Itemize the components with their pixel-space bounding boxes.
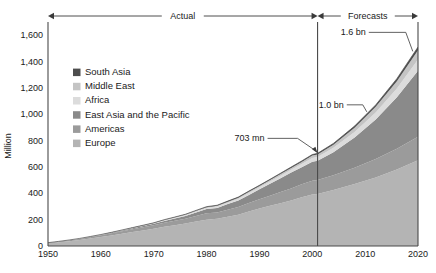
y-tick-label: 1,400 xyxy=(20,57,43,67)
y-tick-label: 800 xyxy=(28,136,43,146)
legend-swatch xyxy=(73,69,81,77)
actual-label: Actual xyxy=(170,11,195,21)
legend-item[interactable]: Africa xyxy=(73,94,110,105)
y-tick-label: 1,600 xyxy=(20,30,43,40)
x-tick-labels: 19501960197019801990200020102020 xyxy=(38,249,428,259)
legend-item[interactable]: East Asia and the Pacific xyxy=(73,109,190,120)
legend-label: East Asia and the Pacific xyxy=(85,109,190,120)
chart-legend: South AsiaMiddle EastAfricaEast Asia and… xyxy=(73,66,190,148)
legend-label: South Asia xyxy=(85,66,131,77)
legend-swatch xyxy=(73,140,81,148)
y-axis-title: Million xyxy=(3,133,13,159)
legend-item[interactable]: Europe xyxy=(73,137,116,148)
legend-swatch xyxy=(73,97,81,105)
legend-swatch xyxy=(73,83,81,91)
legend-label: Americas xyxy=(85,123,125,134)
y-tick-label: 600 xyxy=(28,162,43,172)
x-tick-label: 1970 xyxy=(144,249,164,259)
y-tick-label: 400 xyxy=(28,188,43,198)
leader-703mn-arrowhead xyxy=(312,147,318,154)
legend-item[interactable]: South Asia xyxy=(73,66,131,77)
legend-swatch xyxy=(73,111,81,119)
annotation-1-6bn: 1.6 bn xyxy=(341,27,366,37)
forecasts-label: Forecasts xyxy=(348,11,388,21)
actual-arrowhead-left xyxy=(48,13,54,19)
leader-1-0bn xyxy=(347,105,367,112)
x-tick-label: 1960 xyxy=(91,249,111,259)
forecast-arrowhead-right xyxy=(412,13,418,19)
y-tick-labels: 1,6001,4001,2001,0008006004002000 xyxy=(20,30,43,251)
x-tick-label: 1950 xyxy=(38,249,58,259)
x-tick-label: 2000 xyxy=(302,249,322,259)
y-tick-label: 200 xyxy=(28,215,43,225)
x-tick-label: 2010 xyxy=(355,249,375,259)
legend-swatch xyxy=(73,125,81,132)
y-tick-label: 1,200 xyxy=(20,83,43,93)
chart-canvas: 1,6001,4001,2001,0008006004002000 195019… xyxy=(0,0,436,273)
stacked-area-chart: 1,6001,4001,2001,0008006004002000 195019… xyxy=(0,0,436,273)
actual-arrowhead-right xyxy=(312,13,318,19)
legend-label: Africa xyxy=(85,94,110,105)
x-tick-label: 1990 xyxy=(249,249,269,259)
x-tick-label: 1980 xyxy=(197,249,217,259)
leader-703mn xyxy=(268,138,317,151)
annotation-703mn: 703 mn xyxy=(235,133,265,143)
annotation-1-0bn: 1.0 bn xyxy=(319,100,344,110)
legend-item[interactable]: Americas xyxy=(73,123,125,134)
legend-item[interactable]: Middle East xyxy=(73,80,135,91)
x-tick-label: 2020 xyxy=(408,249,428,259)
legend-label: Europe xyxy=(85,137,116,148)
legend-label: Middle East xyxy=(85,80,135,91)
y-tick-label: 1,000 xyxy=(20,109,43,119)
leader-1-6bn xyxy=(369,32,413,51)
forecast-arrowhead-left xyxy=(318,13,324,19)
